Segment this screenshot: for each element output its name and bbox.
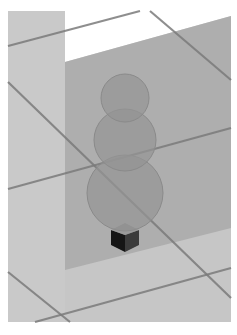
render-viewport bbox=[0, 0, 237, 335]
sphere-top bbox=[101, 74, 149, 122]
left-wall bbox=[8, 11, 65, 322]
